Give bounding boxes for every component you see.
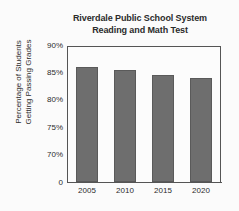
bar-group-0: 2005: [68, 47, 106, 182]
bars-layer: 2005 2010 2015 2020: [68, 47, 220, 182]
y-tick-label-origin: 0: [59, 178, 63, 187]
y-axis-tick-group: 90% 85% 80% 75% 70% 0: [0, 0, 67, 211]
bar-chart-figure: Riverdale Public School System Reading a…: [0, 0, 239, 211]
y-tick-label-85: 85%: [47, 68, 63, 77]
chart-title: Riverdale Public School System Reading a…: [52, 13, 228, 36]
x-axis-baseline: [67, 182, 222, 183]
x-tick-label-2020: 2020: [182, 186, 220, 195]
bar-group-3: 2020: [182, 47, 220, 182]
x-tick-label-2015: 2015: [144, 186, 182, 195]
y-tick-label-75: 75%: [47, 123, 63, 132]
y-tick-label-90: 90%: [47, 41, 63, 50]
x-tick-label-2010: 2010: [106, 186, 144, 195]
y-tick-label-80: 80%: [47, 95, 63, 104]
bar-group-1: 2010: [106, 47, 144, 182]
y-tick-label-70: 70%: [47, 150, 63, 159]
x-tick-label-2005: 2005: [68, 186, 106, 195]
bar-2015: [152, 75, 174, 182]
chart-title-line-2: Reading and Math Test: [52, 25, 228, 37]
bar-group-2: 2015: [144, 47, 182, 182]
bar-2005: [76, 67, 98, 182]
bar-2010: [114, 70, 136, 182]
bar-2020: [190, 78, 212, 183]
chart-title-line-1: Riverdale Public School System: [52, 13, 228, 25]
